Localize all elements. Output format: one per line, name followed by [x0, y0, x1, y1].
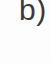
figure-panel: b)	[0, 0, 51, 63]
panel-label: b)	[19, 0, 47, 27]
panel-body	[0, 34, 51, 63]
